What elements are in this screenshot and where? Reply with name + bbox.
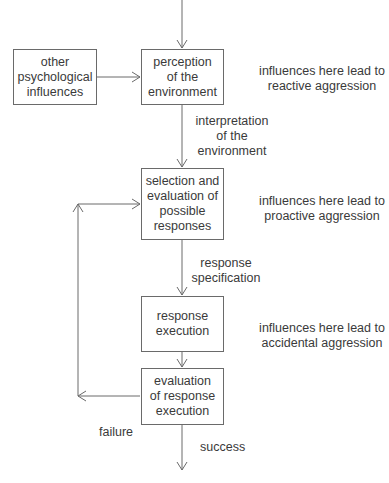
annotation-accidental-aggression: influences here lead to accidental aggre… (258, 321, 386, 351)
edge-label-failure: failure (96, 425, 136, 440)
node-response-execution: response execution (141, 296, 224, 352)
edge-label-success: success (200, 440, 242, 455)
edge-label-interpretation: interpretation of the environment (190, 114, 274, 159)
edge-label-response-specification: response specification (190, 256, 262, 286)
node-other-psychological-influences: other psychological influences (13, 49, 97, 105)
node-selection-and-evaluation: selection and evaluation of possible res… (141, 168, 224, 240)
annotation-proactive-aggression: influences here lead to proactive aggres… (258, 194, 386, 224)
node-perception-of-environment: perception of the environment (141, 49, 224, 105)
annotation-reactive-aggression: influences here lead to reactive aggress… (258, 64, 386, 94)
node-evaluation-of-execution: evaluation of response execution (141, 368, 224, 425)
